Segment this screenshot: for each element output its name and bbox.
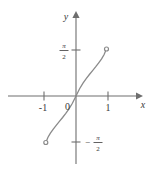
x-axis-label: x [140, 99, 146, 110]
endpoint-lower-open-circle [44, 141, 48, 145]
pi-symbol-numerator-negative: π [96, 134, 100, 142]
origin-label: 0 [65, 101, 70, 112]
y-axis-label: y [63, 11, 69, 22]
x-tick-label-minus-one: -1 [39, 102, 47, 113]
x-tick-label-one: 1 [106, 102, 111, 113]
graph-canvas: x y -1 1 0 π 2 − π 2 [0, 0, 158, 171]
two-denominator: 2 [62, 53, 66, 61]
two-denominator-negative: 2 [96, 145, 100, 153]
y-axis-arrow-icon [72, 11, 79, 18]
minus-sign-negative: − [85, 137, 90, 147]
endpoint-upper-open-circle [105, 47, 109, 51]
pi-symbol-numerator: π [62, 42, 66, 50]
y-tick-label-pi-over-two: π 2 [60, 42, 69, 61]
arcsin-graph-figure: x y -1 1 0 π 2 − π 2 [0, 0, 158, 171]
y-tick-label-negative-pi-over-two: − π 2 [85, 134, 103, 153]
